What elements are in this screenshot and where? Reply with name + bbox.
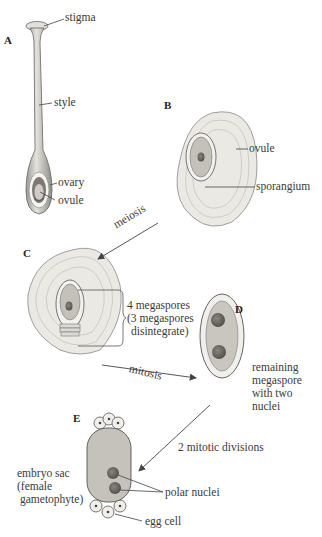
label-remaining-3: with two [252, 387, 293, 400]
diagram-artwork [0, 0, 322, 537]
label-mitotic-divisions: 2 mitotic divisions [178, 441, 264, 454]
label-megaspores-3: disintegrate) [131, 325, 188, 338]
label-ovary: ovary [58, 176, 84, 189]
label-sporangium: sporangium [256, 180, 310, 193]
label-remaining-4: nuclei [252, 400, 280, 413]
diagram-canvas: A B C D E stigma style ovary ovule ovule… [0, 0, 322, 537]
panel-label-e: E [73, 412, 80, 424]
label-embryo-sac-1: embryo sac [17, 467, 70, 480]
panel-label-c: C [23, 247, 31, 259]
panel-label-a: A [4, 34, 12, 46]
panel-label-b: B [164, 99, 171, 111]
label-embryo-sac-2: (female [17, 480, 52, 493]
label-megaspores-1: 4 megaspores [127, 299, 190, 312]
mitotic-divisions-arrow [139, 405, 210, 471]
ovule-illustration [177, 112, 257, 226]
label-megaspores-2: (3 megaspores [127, 312, 194, 325]
embryo-sac-illustration [87, 413, 163, 521]
label-stigma: stigma [65, 11, 96, 24]
label-style: style [54, 96, 76, 109]
panel-label-d: D [235, 303, 243, 315]
megaspore-stage-illustration [28, 248, 126, 354]
label-remaining-1: remaining [252, 361, 299, 374]
label-polar-nuclei: polar nuclei [165, 486, 220, 499]
meiosis-arrow [98, 223, 158, 259]
label-embryo-sac-3: gametophyte) [20, 493, 83, 506]
label-remaining-2: megaspore [252, 374, 302, 387]
label-egg-cell: egg cell [145, 515, 181, 528]
label-ovule-b: ovule [249, 142, 275, 155]
label-ovule-a: ovule [58, 194, 84, 207]
